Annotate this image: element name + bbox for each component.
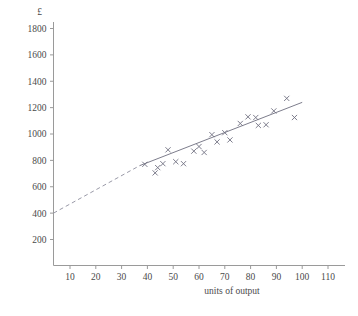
- data-point-marker: [214, 139, 219, 144]
- data-point-marker: [292, 115, 297, 120]
- regression-solid-segment: [140, 102, 303, 165]
- data-point-marker: [271, 108, 276, 113]
- x-tick-label: 90: [272, 272, 282, 282]
- y-tick-label: 200: [32, 235, 47, 245]
- regression-line-extrapolated: [54, 166, 140, 213]
- data-point-marker: [227, 137, 232, 142]
- data-point-marker: [209, 132, 214, 137]
- x-tick-label: 70: [220, 272, 230, 282]
- data-points: [142, 96, 297, 176]
- data-point-marker: [153, 170, 158, 175]
- x-tick-label: 100: [295, 272, 310, 282]
- y-tick-label: 800: [32, 156, 47, 166]
- x-axis-title: units of output: [204, 286, 260, 296]
- x-tick-label: 80: [246, 272, 256, 282]
- x-tick-label: 40: [143, 272, 153, 282]
- x-tick-label: 30: [117, 272, 127, 282]
- y-axis-ticks: 20040060080010001200140016001800: [28, 24, 54, 245]
- data-point-marker: [238, 121, 243, 126]
- y-tick-label: 1200: [28, 103, 47, 113]
- y-axis-title: £: [37, 7, 42, 17]
- data-point-marker: [253, 115, 258, 120]
- regression-dashed-segment: [54, 166, 140, 213]
- data-point-marker: [160, 161, 165, 166]
- regression-line: [140, 102, 303, 165]
- data-point-marker: [155, 165, 160, 170]
- y-tick-label: 1600: [28, 50, 47, 60]
- x-tick-label: 110: [321, 272, 335, 282]
- x-tick-label: 60: [194, 272, 204, 282]
- x-tick-label: 50: [168, 272, 178, 282]
- x-axis-ticks: 102030405060708090100110: [65, 266, 335, 282]
- chart-svg: 20040060080010001200140016001800 1020304…: [0, 0, 358, 316]
- y-tick-label: 1400: [28, 77, 47, 87]
- data-point-marker: [245, 114, 250, 119]
- data-point-marker: [191, 149, 196, 154]
- data-point-marker: [173, 159, 178, 164]
- data-point-marker: [196, 144, 201, 149]
- y-tick-label: 600: [32, 182, 47, 192]
- data-point-marker: [256, 123, 261, 128]
- x-tick-label: 10: [65, 272, 75, 282]
- data-point-marker: [165, 147, 170, 152]
- y-tick-label: 1800: [28, 24, 47, 34]
- x-tick-label: 20: [91, 272, 101, 282]
- data-point-marker: [202, 150, 207, 155]
- y-tick-label: 1000: [28, 129, 47, 139]
- data-point-marker: [181, 161, 186, 166]
- data-point-marker: [284, 96, 289, 101]
- scatter-chart: 20040060080010001200140016001800 1020304…: [0, 0, 358, 316]
- data-point-marker: [263, 122, 268, 127]
- y-tick-label: 400: [32, 209, 47, 219]
